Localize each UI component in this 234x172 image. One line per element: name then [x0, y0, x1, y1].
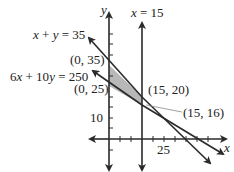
vertex-label-15-20: (15, 20) — [148, 82, 189, 97]
vertex-label-0-25: (0, 25) — [74, 81, 109, 96]
label-x-plus-y-35: x + y = 35 — [32, 27, 85, 42]
vertex-label-0-35: (0, 35) — [70, 52, 105, 67]
x-axis-label: x — [223, 140, 230, 155]
y-tick-label-10: 10 — [90, 110, 103, 125]
label-x-eq-15: x = 15 — [130, 5, 164, 20]
feasible-region-graph: y x x + y = 35 6x + 10y = 250 x = 15 (0,… — [0, 0, 234, 172]
vertex-label-15-16: (15, 16) — [183, 105, 224, 120]
x-tick-label-25: 25 — [157, 142, 170, 157]
y-axis-label: y — [99, 2, 107, 17]
